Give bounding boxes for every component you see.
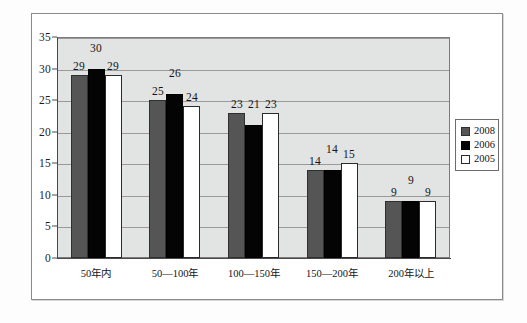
legend-item-label: 2008 — [474, 126, 495, 137]
bar-chart: 05101520253035 2930292526242321231414159… — [31, 13, 501, 298]
bar-2006-3[interactable] — [245, 125, 262, 258]
bar-value-label: 9 — [408, 174, 414, 186]
bar-2008-5[interactable] — [385, 201, 402, 258]
bar-2006-5[interactable] — [402, 201, 419, 258]
bar-value-label: 29 — [107, 60, 119, 72]
chart-legend: 2008 2006 2005 — [455, 119, 499, 171]
bar-2006-2[interactable] — [166, 94, 183, 258]
y-axis-tick-label: 35 — [39, 31, 51, 43]
y-axis-tick-label: 0 — [45, 252, 51, 264]
y-axis-tick-label: 15 — [39, 157, 51, 169]
x-axis-line — [57, 258, 451, 259]
bar-2005-4[interactable] — [341, 163, 358, 258]
legend-item-2006[interactable]: 2006 — [461, 138, 494, 152]
y-axis-tick-label: 5 — [45, 220, 51, 232]
black-swatch-icon — [461, 141, 470, 150]
bar-2008-2[interactable] — [149, 100, 166, 258]
bars-layer: 293029252624232123141415999 — [57, 37, 450, 258]
white-swatch-icon — [461, 155, 470, 164]
bar-value-label: 9 — [391, 186, 397, 198]
bar-2008-1[interactable] — [71, 75, 88, 258]
y-axis-tick-label: 25 — [39, 94, 51, 106]
bar-value-label: 30 — [90, 42, 102, 54]
dark-gray-swatch-icon — [461, 127, 470, 136]
x-axis-category-label: 50年内 — [81, 265, 112, 280]
y-axis-tick-label: 10 — [39, 189, 51, 201]
bar-2006-1[interactable] — [88, 69, 105, 258]
bar-value-label: 9 — [425, 186, 431, 198]
bar-2005-5[interactable] — [419, 201, 436, 258]
x-axis-category-label: 100—150年 — [228, 265, 280, 280]
x-axis-category-label: 200年以上 — [388, 265, 434, 280]
bar-value-label: 29 — [73, 60, 85, 72]
x-axis-category-label: 150—200年 — [306, 265, 358, 280]
y-axis-tick-label: 30 — [39, 63, 51, 75]
x-axis-category-label: 50—100年 — [152, 265, 199, 280]
legend-item-label: 2005 — [474, 154, 495, 165]
bar-value-label: 14 — [309, 155, 321, 167]
legend-item-2008[interactable]: 2008 — [461, 124, 494, 138]
bar-value-label: 23 — [231, 98, 243, 110]
bar-2005-2[interactable] — [183, 106, 200, 258]
bar-2008-3[interactable] — [228, 113, 245, 258]
legend-item-2005[interactable]: 2005 — [461, 152, 494, 166]
scanned-page: 05101520253035 2930292526242321231414159… — [0, 0, 527, 323]
bar-2008-4[interactable] — [307, 170, 324, 258]
bar-value-label: 26 — [169, 67, 181, 79]
bar-2005-3[interactable] — [262, 113, 279, 258]
bar-value-label: 14 — [326, 143, 338, 155]
bar-value-label: 23 — [265, 98, 277, 110]
bar-2005-1[interactable] — [105, 75, 122, 258]
bar-2006-4[interactable] — [324, 170, 341, 258]
bar-value-label: 21 — [248, 98, 260, 110]
bar-value-label: 15 — [343, 148, 355, 160]
y-axis-tick-label: 20 — [39, 126, 51, 138]
legend-item-label: 2006 — [474, 140, 495, 151]
bar-value-label: 25 — [152, 85, 164, 97]
bar-value-label: 24 — [186, 91, 198, 103]
